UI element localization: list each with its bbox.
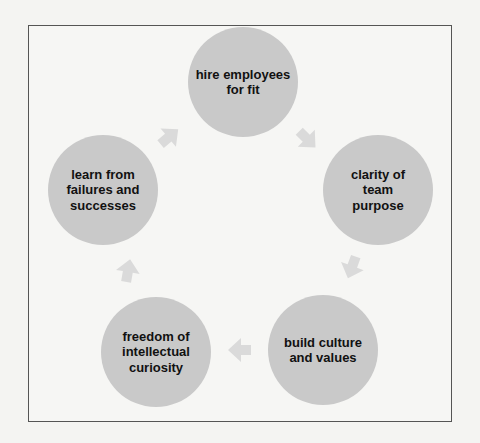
node-label: freedom of intellectual curiosity bbox=[108, 329, 204, 376]
node-label: build culture and values bbox=[275, 335, 371, 366]
node-learn-from-failures-and-successes: learn from failures and successes bbox=[48, 135, 158, 245]
node-clarity-of-team-purpose: clarity of team purpose bbox=[323, 135, 433, 245]
node-freedom-of-intellectual-curiosity: freedom of intellectual curiosity bbox=[101, 297, 211, 407]
arrow-culture-to-freedom-icon bbox=[225, 335, 255, 365]
node-build-culture-and-values: build culture and values bbox=[268, 295, 378, 405]
node-label: hire employees for fit bbox=[195, 67, 291, 98]
arrow-hire-to-clarity-icon bbox=[292, 124, 322, 154]
node-hire-employees-for-fit: hire employees for fit bbox=[188, 27, 298, 137]
arrow-clarity-to-culture-icon bbox=[337, 252, 367, 282]
node-label: learn from failures and successes bbox=[55, 167, 151, 214]
arrow-freedom-to-learn-icon bbox=[113, 256, 143, 286]
node-label: clarity of team purpose bbox=[338, 167, 418, 214]
arrow-learn-to-hire-icon bbox=[154, 122, 184, 152]
